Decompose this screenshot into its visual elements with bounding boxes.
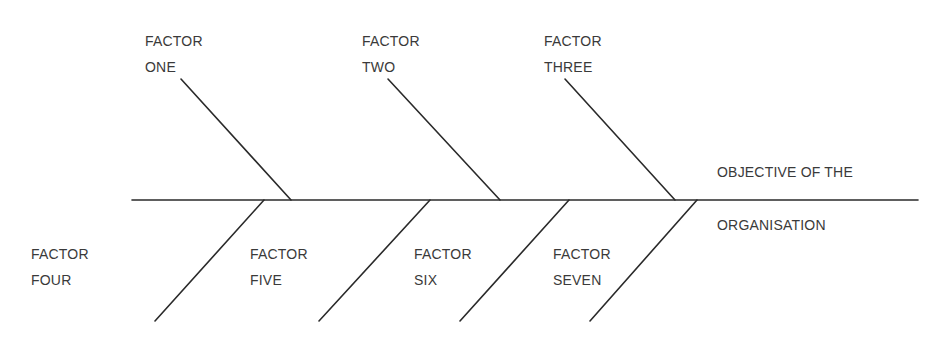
factor-three-line2: THREE (544, 54, 602, 80)
factor-one-line2: ONE (145, 54, 203, 80)
factor-five-line1: FACTOR (250, 241, 308, 267)
factor-five-line2: FIVE (250, 267, 308, 293)
bone-factor-two (388, 79, 500, 200)
bone-factor-one (181, 79, 291, 200)
factor-four-line2: FOUR (31, 267, 89, 293)
factor-two-line2: TWO (362, 54, 420, 80)
factor-five-label: FACTOR FIVE (250, 241, 308, 293)
factor-four-label: FACTOR FOUR (31, 241, 89, 293)
fishbone-diagram: FACTOR ONE FACTOR TWO FACTOR THREE FACTO… (0, 0, 945, 341)
factor-seven-label: FACTOR SEVEN (553, 241, 611, 293)
bone-factor-three (565, 79, 675, 200)
factor-six-line1: FACTOR (414, 241, 472, 267)
objective-line2: ORGANISATION (717, 217, 826, 233)
factor-six-line2: SIX (414, 267, 472, 293)
factor-seven-line1: FACTOR (553, 241, 611, 267)
factor-six-label: FACTOR SIX (414, 241, 472, 293)
factor-seven-line2: SEVEN (553, 267, 611, 293)
factor-three-label: FACTOR THREE (544, 28, 602, 80)
factor-two-line1: FACTOR (362, 28, 420, 54)
factor-one-line1: FACTOR (145, 28, 203, 54)
factor-one-label: FACTOR ONE (145, 28, 203, 80)
bone-factor-four (155, 200, 264, 321)
factor-three-line1: FACTOR (544, 28, 602, 54)
objective-line1: OBJECTIVE OF THE (717, 164, 853, 180)
factor-four-line1: FACTOR (31, 241, 89, 267)
factor-two-label: FACTOR TWO (362, 28, 420, 80)
